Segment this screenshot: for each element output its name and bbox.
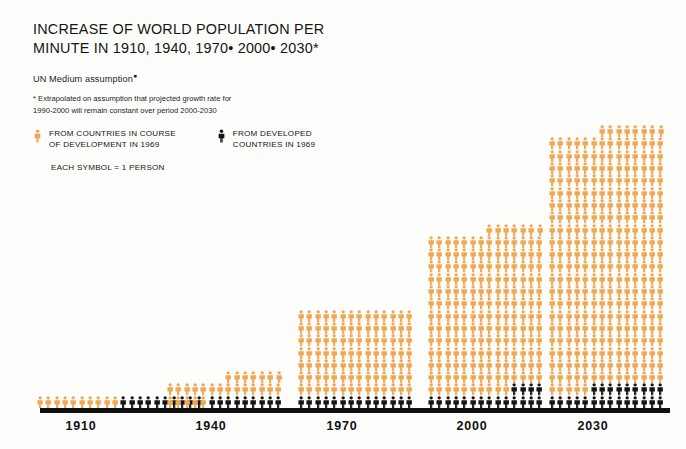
person-figure-orange-icon	[656, 162, 664, 174]
person-figure-orange-icon	[485, 322, 493, 334]
person-figure-orange-icon	[44, 396, 52, 408]
person-figure-dark-icon	[380, 396, 388, 408]
legend-row: FROM COUNTRIES IN COURSE OF DEVELOPMENT …	[33, 128, 453, 150]
person-figure-orange-icon	[640, 371, 648, 383]
person-figure-orange-icon	[556, 322, 564, 334]
person-figure-orange-icon	[61, 396, 69, 408]
person-figure-orange-icon	[452, 347, 460, 359]
person-figure-orange-icon	[485, 285, 493, 297]
person-figure-orange-icon	[648, 371, 656, 383]
person-figure-orange-icon	[648, 150, 656, 162]
person-figure-orange-icon	[606, 359, 614, 371]
person-figure-orange-icon	[510, 334, 518, 346]
person-figure-orange-icon	[640, 273, 648, 285]
pictogram-row	[427, 371, 546, 383]
person-figure-orange-icon	[656, 260, 664, 272]
person-figure-orange-icon	[656, 334, 664, 346]
person-figure-orange-icon	[347, 310, 355, 322]
person-figure-orange-icon	[606, 150, 614, 162]
person-figure-orange-icon	[656, 310, 664, 322]
person-figure-orange-icon	[606, 310, 614, 322]
person-figure-orange-icon	[314, 334, 322, 346]
person-figure-dark-icon	[119, 396, 127, 408]
person-figure-orange-icon	[640, 150, 648, 162]
person-figure-orange-icon	[536, 224, 544, 236]
person-figure-orange-icon	[69, 396, 77, 408]
person-figure-orange-icon	[339, 322, 347, 334]
person-figure-orange-icon	[527, 285, 535, 297]
person-figure-orange-icon	[535, 236, 543, 248]
person-figure-orange-icon	[615, 187, 623, 199]
person-figure-orange-icon	[494, 371, 502, 383]
person-figure-orange-icon	[435, 285, 443, 297]
person-figure-orange-icon	[598, 310, 606, 322]
person-figure-orange-icon	[535, 322, 543, 334]
person-figure-orange-icon	[502, 359, 510, 371]
person-figure-orange-icon	[606, 248, 614, 260]
person-figure-orange-icon	[656, 285, 664, 297]
person-figure-orange-icon	[494, 310, 502, 322]
person-figure-orange-icon	[581, 310, 589, 322]
person-figure-orange-icon	[485, 334, 493, 346]
person-figure-orange-icon	[598, 150, 606, 162]
person-figure-orange-icon	[656, 224, 664, 236]
pictogram-row	[297, 396, 416, 408]
person-figure-orange-icon	[494, 273, 502, 285]
person-figure-orange-icon	[615, 162, 623, 174]
person-figure-orange-icon	[519, 248, 527, 260]
person-figure-orange-icon	[427, 334, 435, 346]
footnote: * Extrapolated on assumption that projec…	[33, 93, 363, 116]
person-figure-orange-icon	[581, 174, 589, 186]
person-figure-dark-icon	[548, 396, 556, 408]
person-figure-orange-icon	[648, 236, 656, 248]
person-figure-orange-icon	[355, 383, 363, 395]
person-figure-orange-icon	[581, 383, 589, 395]
person-figure-orange-icon	[452, 285, 460, 297]
person-figure-orange-icon	[452, 371, 460, 383]
person-figure-orange-icon	[648, 273, 656, 285]
person-figure-orange-icon	[556, 383, 564, 395]
person-figure-orange-icon	[527, 371, 535, 383]
person-figure-orange-icon	[598, 260, 606, 272]
person-figure-orange-icon	[485, 236, 493, 248]
person-figure-orange-icon	[648, 322, 656, 334]
person-figure-orange-icon	[573, 273, 581, 285]
person-figure-orange-icon	[347, 347, 355, 359]
person-figure-orange-icon	[598, 322, 606, 334]
person-figure-orange-icon	[435, 310, 443, 322]
person-figure-orange-icon	[606, 273, 614, 285]
person-figure-orange-icon	[103, 396, 111, 408]
person-figure-orange-icon	[330, 310, 338, 322]
person-figure-dark-icon	[485, 396, 493, 408]
legend-item-developing: FROM COUNTRIES IN COURSE OF DEVELOPMENT …	[33, 128, 176, 150]
person-figure-orange-icon	[502, 383, 510, 395]
person-figure-orange-icon	[444, 359, 452, 371]
person-figure-orange-icon	[615, 224, 623, 236]
person-figure-orange-icon	[648, 137, 656, 149]
person-figure-dark-icon	[241, 396, 249, 408]
person-figure-orange-icon	[452, 273, 460, 285]
pictogram-row	[36, 396, 205, 408]
pictogram-row	[427, 359, 546, 371]
person-figure-orange-icon	[339, 371, 347, 383]
person-figure-orange-icon	[469, 371, 477, 383]
person-figure-orange-icon	[460, 347, 468, 359]
person-figure-orange-icon	[631, 162, 639, 174]
person-figure-orange-icon	[339, 347, 347, 359]
pictogram-row	[297, 371, 416, 383]
person-figure-orange-icon	[314, 322, 322, 334]
person-figure-orange-icon	[469, 383, 477, 395]
person-figure-orange-icon	[573, 285, 581, 297]
person-figure-orange-icon	[656, 236, 664, 248]
person-figure-orange-icon	[427, 285, 435, 297]
person-figure-orange-icon	[166, 383, 174, 395]
person-figure-orange-icon	[548, 199, 556, 211]
person-figure-orange-icon	[573, 383, 581, 395]
person-figure-orange-icon	[380, 383, 388, 395]
person-figure-orange-icon	[435, 273, 443, 285]
person-figure-orange-icon	[598, 297, 606, 309]
legend-symbol-note: EACH SYMBOL = 1 PERSON	[51, 163, 453, 172]
person-figure-orange-icon	[477, 310, 485, 322]
person-figure-orange-icon	[565, 174, 573, 186]
pictogram-row	[427, 310, 546, 322]
